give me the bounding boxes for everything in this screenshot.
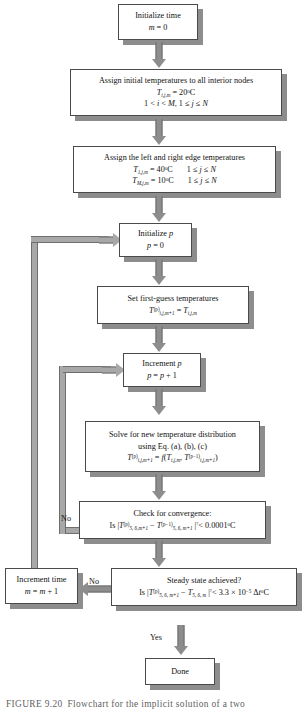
assign-edges-line2: T1,j,m = 40oC1 ≤ j ≤ N: [133, 165, 216, 175]
assign-edges-line1: Assign the left and right edge temperatu…: [104, 153, 245, 163]
assign-edges-line3: TM,j,m = 10oC1 ≤ j ≤ N: [132, 176, 216, 186]
steady-state-check-box: Steady state achieved? Is |T(p)5, 6, m+1…: [111, 568, 297, 606]
increment-time-line1: Increment time: [17, 575, 67, 585]
solve-line2: using Eq. (a), (b), (c): [138, 442, 207, 452]
increment-time-box: Increment time m = m + 1: [5, 568, 78, 604]
solve-temperature-distribution-box: Solve for new temperature distribution u…: [85, 421, 260, 472]
arrow-first-guess-to-increment-p: [151, 326, 167, 352]
loop-steady-state-horizontal-in: [31, 236, 109, 243]
assign-initial-line3: 1 < i < M, 1 ≤ j ≤ N: [144, 99, 208, 109]
increment-time-line2: m = m + 1: [25, 587, 58, 597]
solve-line3: T(p)i,j,m+1 = f(Ti,j,m, T(p−1)i,j,m+1): [127, 453, 218, 463]
initialize-time-line1: Initialize time: [135, 11, 181, 21]
steady-state-line1: Steady state achieved?: [167, 576, 241, 586]
initialize-p-line2: p = 0: [147, 241, 164, 251]
increment-p-line2: p = p + 1: [147, 371, 177, 381]
arrow-increment-p-to-solve: [151, 389, 167, 415]
figure-caption: FIGURE 9.20Flowchart for the implicit so…: [6, 699, 305, 709]
arrow-assign-edges-to-initialize-p: [151, 196, 167, 222]
initialize-p-box: Initialize p p = 0: [119, 223, 192, 257]
label-convergence-no: No: [61, 514, 71, 523]
arrow-initialize-time-to-assign-initial: [151, 42, 167, 68]
solve-line1: Solve for new temperature distribution: [109, 430, 236, 440]
increment-p-line1: Increment p: [142, 359, 181, 369]
set-first-guess-temperatures-box: Set first-guess temperatures T(p)i,j,m+1…: [97, 286, 249, 324]
steady-state-line2: Is |T(p)5, 6, m+1 − T5, 6, m |?< 3.3 × 1…: [139, 588, 269, 598]
label-steady-state-yes: Yes: [150, 633, 162, 642]
arrow-assign-initial-to-assign-edges: [151, 119, 167, 145]
convergence-line1: Check for convergence:: [133, 509, 211, 519]
loop-steady-state-vertical: [31, 240, 38, 582]
done-box: Done: [145, 658, 215, 685]
arrow-steady-state-to-done: [173, 625, 189, 655]
first-guess-line2: T(p)i,j,m+1 = Ti,j,m: [149, 306, 197, 316]
assign-initial-line2: Ti,j,m = 20oC: [157, 88, 196, 98]
assign-initial-temperatures-box: Assign initial temperatures to all inter…: [70, 69, 282, 116]
label-steady-state-no: No: [89, 577, 99, 586]
initialize-time-box: Initialize time m = 0: [118, 4, 198, 40]
loop-convergence-vertical: [59, 366, 66, 534]
done-line1: Done: [171, 667, 189, 677]
initialize-time-line2: m = 0: [149, 23, 168, 33]
arrow-initialize-p-to-first-guess: [151, 259, 167, 285]
arrow-loop-convergence-to-increment-p: [102, 362, 125, 378]
arrow-convergence-to-steady-state: [151, 541, 167, 567]
assign-edge-temperatures-box: Assign the left and right edge temperatu…: [73, 146, 276, 193]
convergence-line2: Is |T(p)5, 6,m+1 − T(p−1)5, 6, m+1 |?< 0…: [109, 521, 235, 531]
figure-caption-text: Flowchart for the implicit solution of a…: [67, 699, 245, 709]
flowchart-figure: Initialize time m = 0 Assign initial tem…: [0, 0, 305, 715]
arrow-solve-to-convergence: [151, 474, 167, 500]
first-guess-line1: Set first-guess temperatures: [128, 294, 219, 304]
check-for-convergence-box: Check for convergence: Is |T(p)5, 6,m+1 …: [79, 501, 266, 539]
figure-caption-number: FIGURE 9.20: [6, 699, 62, 709]
increment-p-box: Increment p p = p + 1: [123, 353, 201, 387]
initialize-p-line1: Initialize p: [138, 229, 173, 239]
assign-initial-line1: Assign initial temperatures to all inter…: [99, 76, 253, 86]
